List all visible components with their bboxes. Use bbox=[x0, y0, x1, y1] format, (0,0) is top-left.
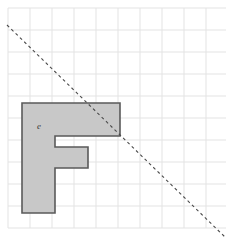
label-e: e bbox=[37, 121, 41, 131]
figure-canvas: e bbox=[0, 0, 226, 237]
figure-svg: e bbox=[0, 0, 226, 237]
